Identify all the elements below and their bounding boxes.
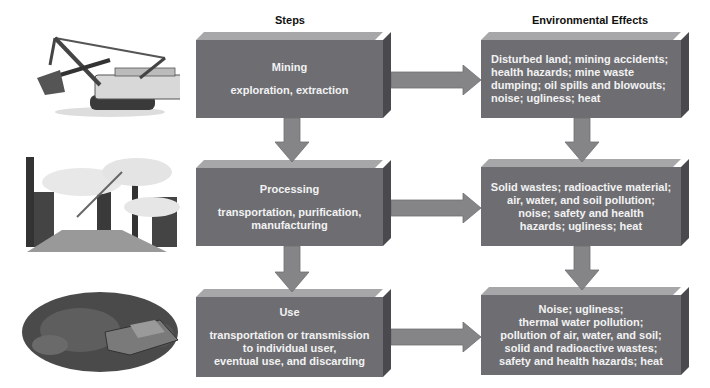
step-box-processing: Processing transportation, purification,… [196, 168, 383, 246]
arrow-down-icon [275, 118, 309, 162]
effect-box-mining: Disturbed land; mining accidents; health… [481, 40, 681, 118]
effect-text: air, water, and soil pollution; [507, 194, 655, 207]
arrow-right-icon [391, 65, 483, 95]
factory-smokestacks-illustration [22, 152, 182, 252]
step-description: transportation, purification, [218, 206, 362, 219]
arrow-down-icon [275, 246, 309, 292]
step-description: transportation or transmission [209, 329, 369, 342]
step-title: Use [279, 306, 299, 319]
step-box-mining: Mining exploration, extraction [196, 40, 383, 118]
box-side-face [681, 159, 689, 246]
effect-text: safety and health hazards; heat [499, 355, 663, 368]
effect-text: Solid wastes; radioactive material; [491, 181, 671, 194]
arrow-right-icon [391, 193, 483, 223]
box-side-face [383, 160, 391, 246]
box-top-face [196, 32, 383, 40]
junkyard-cars-illustration [20, 290, 180, 375]
box-side-face [681, 32, 689, 118]
box-top-face [481, 32, 681, 40]
effect-box-use: Noise; ugliness; thermal water pollution… [481, 295, 681, 375]
effect-text: Noise; ugliness; [539, 303, 624, 316]
power-shovel-illustration [15, 30, 180, 120]
step-title: Mining [272, 61, 307, 74]
effect-text: health hazards; mine waste [491, 66, 634, 79]
step-description: eventual use, and discarding [214, 355, 365, 368]
steps-header: Steps [250, 14, 330, 26]
box-side-face [383, 289, 391, 377]
effect-text: noise; safety and health [518, 207, 643, 220]
box-side-face [383, 32, 391, 118]
effect-text: thermal water pollution; [519, 316, 644, 329]
step-box-use: Use transportation or transmission to in… [196, 297, 383, 377]
arrow-down-icon [565, 118, 599, 162]
arrow-down-icon [565, 246, 599, 290]
step-description: to individual user, [243, 342, 337, 355]
step-title: Processing [260, 183, 319, 196]
step-description: exploration, extraction [231, 84, 349, 97]
effect-text: Disturbed land; mining accidents; [491, 53, 668, 66]
arrow-right-icon [391, 322, 483, 352]
effect-text: hazards; ugliness; heat [520, 220, 642, 233]
environmental-effects-header: Environmental Effects [510, 14, 670, 26]
box-side-face [681, 287, 689, 375]
effect-text: pollution of air, water, and soil; [500, 329, 661, 342]
effect-text: dumping; oil spills and blowouts; [491, 79, 666, 92]
effect-text: solid and radioactive wastes; [505, 342, 658, 355]
effect-box-processing: Solid wastes; radioactive material; air,… [481, 167, 681, 246]
effect-text: noise; ugliness; heat [491, 92, 600, 105]
step-description: manufacturing [251, 219, 327, 232]
